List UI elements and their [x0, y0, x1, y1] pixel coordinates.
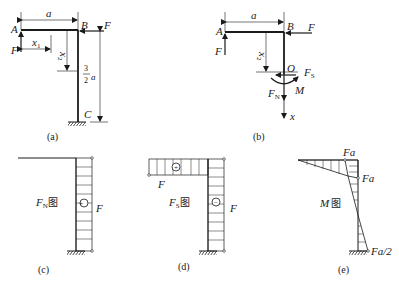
caption-a: (a) [47, 131, 58, 143]
figure-d-labels: + − F FS图 F (d) [157, 164, 237, 273]
moment-value-top: Fa [342, 146, 356, 158]
figure-a-labels: a A B F F x1 x2 3 2 a C (a) [10, 7, 111, 143]
point-o-label: O [287, 62, 295, 74]
caption-b: (b) [253, 131, 265, 143]
x2-label: x2 [255, 51, 269, 61]
figure-b [225, 12, 312, 118]
value-label: F [229, 202, 237, 214]
fixed-support-icon [67, 251, 85, 255]
dim-a-label: a [46, 7, 52, 19]
value-label: F [157, 178, 165, 190]
fraction-var: a [91, 72, 96, 82]
fixed-support-icon [68, 122, 86, 126]
dim-a-label: a [251, 9, 257, 21]
force-f-label: F [103, 19, 111, 31]
point-a-label: A [215, 25, 223, 37]
moment-label: M [294, 84, 305, 96]
fraction-numerator: 3 [84, 64, 88, 73]
fixed-support-icon [349, 251, 367, 255]
figure-b-labels: a A B F F x2 O FS FN M x (b) [214, 9, 315, 143]
point-b-label: B [81, 19, 88, 31]
m-diagram-title: M图 [319, 197, 341, 209]
point-c-label: C [84, 108, 92, 120]
point-a-label: A [10, 23, 18, 35]
figure-a [21, 12, 108, 126]
sign-label: + [79, 200, 83, 208]
sign-label: − [214, 199, 218, 207]
caption-d: (d) [178, 261, 190, 273]
figure-c-labels: + FN图 F (c) [35, 196, 103, 276]
x1-label: x1 [31, 36, 41, 50]
x-axis-label: x [289, 110, 295, 122]
moment-value-bottom: Fa/2 [370, 245, 392, 257]
value-label: F [95, 202, 103, 214]
frame-diagram-figure: a A B F F x1 x2 3 2 a C (a) a A B [0, 0, 399, 286]
x2-label: x2 [56, 51, 70, 61]
caption-c: (c) [38, 264, 49, 276]
moment-value-corner: Fa [361, 172, 375, 184]
force-f-label: F [10, 44, 18, 56]
fraction-denominator: 2 [84, 76, 88, 85]
normal-force-label: FN [267, 87, 280, 101]
force-f-label: F [214, 45, 222, 57]
point-b-label: B [287, 20, 294, 32]
force-f-label: F [307, 21, 315, 33]
caption-e: (e) [338, 264, 349, 276]
fn-diagram-title: FN图 [35, 196, 58, 210]
figure-e-labels: Fa Fa M图 Fa/2 (e) [319, 146, 392, 276]
fs-diagram-title: FS图 [168, 196, 190, 210]
sign-label: + [174, 164, 178, 172]
fixed-support-icon [199, 251, 217, 255]
shear-force-label: FS [303, 66, 315, 80]
